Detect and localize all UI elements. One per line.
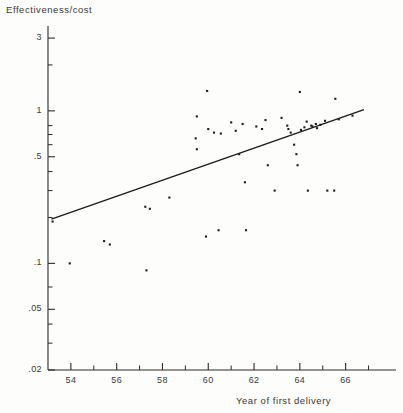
y-tick-label: .5 xyxy=(14,151,42,161)
data-point xyxy=(205,235,207,237)
data-point xyxy=(168,197,170,199)
data-point xyxy=(218,229,220,231)
data-point xyxy=(297,164,299,166)
data-point xyxy=(267,164,269,166)
data-point xyxy=(230,121,232,123)
data-point xyxy=(69,262,71,264)
data-point xyxy=(213,132,215,134)
data-point xyxy=(103,240,105,242)
data-point xyxy=(299,91,301,93)
y-tick-label: .05 xyxy=(14,303,42,313)
data-point xyxy=(280,117,282,119)
data-point xyxy=(274,190,276,192)
y-tick-label: .02 xyxy=(14,364,42,374)
y-tick-label: .1 xyxy=(14,257,42,267)
data-point xyxy=(255,125,257,127)
data-point xyxy=(290,132,292,134)
data-point xyxy=(207,128,209,130)
data-point xyxy=(334,98,336,100)
x-tick-label: 66 xyxy=(331,375,361,385)
data-point xyxy=(196,148,198,150)
data-point xyxy=(315,123,317,125)
x-tick-label: 56 xyxy=(102,375,132,385)
data-point xyxy=(195,137,197,139)
data-point xyxy=(196,115,198,117)
data-point xyxy=(144,206,146,208)
x-tick-label: 60 xyxy=(193,375,223,385)
data-point xyxy=(264,119,266,121)
data-point xyxy=(333,190,335,192)
data-point xyxy=(303,126,305,128)
data-point xyxy=(245,229,247,231)
data-point xyxy=(149,208,151,210)
scatter-chart-figure: Effectiveness/cost Year of first deliver… xyxy=(0,0,403,413)
data-point xyxy=(316,127,318,129)
data-point xyxy=(306,121,308,123)
data-point xyxy=(324,120,326,122)
data-point xyxy=(52,221,54,223)
data-point xyxy=(287,128,289,130)
x-axis-ticks xyxy=(71,363,369,370)
y-tick-label: 3 xyxy=(14,32,42,42)
data-point xyxy=(286,125,288,127)
data-point xyxy=(351,115,353,117)
axis-lines xyxy=(48,26,396,370)
data-points xyxy=(52,90,354,271)
x-tick-label: 64 xyxy=(285,375,315,385)
x-tick-label: 58 xyxy=(147,375,177,385)
plot-area xyxy=(0,0,403,413)
regression-fit-line xyxy=(51,110,364,220)
data-point xyxy=(235,130,237,132)
data-point xyxy=(307,190,309,192)
data-point xyxy=(293,144,295,146)
y-axis-ticks xyxy=(48,38,55,370)
data-point xyxy=(109,243,111,245)
regression-line xyxy=(51,110,364,220)
data-point xyxy=(206,90,208,92)
data-point xyxy=(242,123,244,125)
data-point xyxy=(295,153,297,155)
data-point xyxy=(220,132,222,134)
data-point xyxy=(261,128,263,130)
x-tick-label: 54 xyxy=(56,375,86,385)
data-point xyxy=(145,269,147,271)
data-point xyxy=(244,181,246,183)
y-tick-label: 1 xyxy=(14,105,42,115)
data-point xyxy=(326,190,328,192)
x-tick-label: 62 xyxy=(239,375,269,385)
